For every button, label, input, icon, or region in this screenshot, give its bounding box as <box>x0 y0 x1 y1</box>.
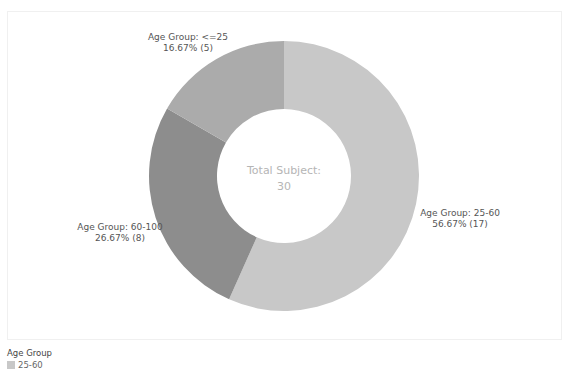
donut-chart: Total Subject: 30 Age Group: 25-6056.67%… <box>0 0 567 345</box>
slice-label: Age Group: <=25 <box>148 32 228 42</box>
slice-label: Age Group: 25-60 <box>420 208 500 218</box>
center-label-line1: Total Subject: <box>246 164 321 177</box>
donut-slice-60-100[interactable] <box>149 109 257 300</box>
legend-title: Age Group <box>7 348 52 358</box>
legend-swatch <box>7 361 15 369</box>
center-label-line2: 30 <box>277 180 291 193</box>
slice-value-label: 16.67% (5) <box>163 43 213 53</box>
legend-item[interactable]: 25-60 <box>7 360 52 370</box>
slice-value-label: 56.67% (17) <box>432 219 488 229</box>
legend: Age Group 25-60 <box>7 348 52 370</box>
slice-label: Age Group: 60-100 <box>77 222 163 232</box>
slice-value-label: 26.67% (8) <box>95 233 145 243</box>
legend-item-label: 25-60 <box>18 360 43 370</box>
